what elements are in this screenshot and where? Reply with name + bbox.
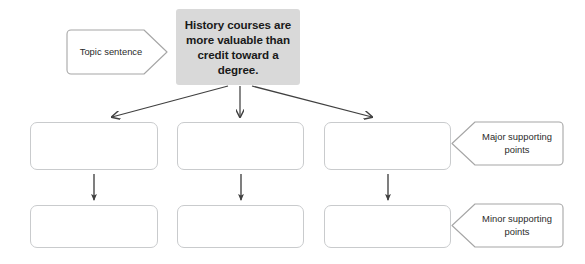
minor-supporting-points-label: Minor supporting points [469, 203, 565, 248]
minor-point-box-1[interactable] [30, 205, 158, 248]
thesis-statement-box: History courses are more valuable than c… [176, 9, 300, 85]
major-point-box-3[interactable] [324, 122, 451, 170]
arrow-thesis-to-box3 [252, 86, 372, 117]
arrow-thesis-to-box1 [112, 86, 228, 117]
minor-supporting-points-callout: Minor supporting points [451, 203, 564, 248]
topic-sentence-callout: Topic sentence [66, 29, 168, 75]
major-point-box-2[interactable] [177, 122, 304, 170]
topic-sentence-label: Topic sentence [72, 29, 150, 75]
major-supporting-points-label: Major supporting points [469, 121, 565, 166]
diagram-canvas: Topic sentence History courses are more … [0, 0, 585, 264]
major-point-box-1[interactable] [30, 122, 158, 170]
minor-point-box-2[interactable] [177, 205, 304, 248]
thesis-statement-text: History courses are more valuable than c… [183, 17, 293, 77]
minor-point-box-3[interactable] [324, 205, 451, 248]
major-supporting-points-callout: Major supporting points [451, 121, 564, 166]
